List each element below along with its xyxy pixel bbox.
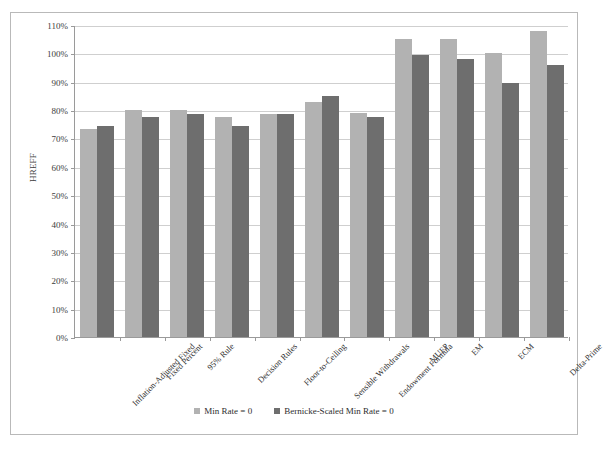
bar	[547, 65, 564, 337]
bar-group	[305, 26, 339, 337]
y-axis-tick-mark	[71, 111, 75, 112]
dark-gray-swatch	[274, 408, 280, 414]
y-axis-tick-mark	[71, 310, 75, 311]
x-axis-tick-mark	[479, 337, 480, 341]
bar-group	[350, 26, 384, 337]
x-axis-tick-mark	[165, 337, 166, 341]
x-axis-tick-mark	[210, 337, 211, 341]
bar	[502, 83, 519, 337]
y-axis-tick-mark	[71, 83, 75, 84]
y-axis-tick-mark	[71, 168, 75, 169]
bar	[530, 31, 547, 337]
bar	[440, 39, 457, 337]
legend-label: Min Rate = 0	[204, 406, 252, 416]
bar	[457, 59, 474, 337]
plot-area: 110%100%90%80%70%60%50%40%30%20%10%0%	[74, 26, 568, 338]
legend-item[interactable]: Min Rate = 0	[194, 406, 252, 416]
bar	[125, 110, 142, 337]
x-axis-tick-mark	[389, 337, 390, 341]
bar-group	[530, 26, 564, 337]
bar-group	[260, 26, 294, 337]
bar-group	[215, 26, 249, 337]
x-axis-tick-mark	[255, 337, 256, 341]
light-gray-swatch	[194, 408, 200, 414]
y-axis-tick-mark	[71, 253, 75, 254]
y-axis-tick-mark	[71, 281, 75, 282]
chart-legend: Min Rate = 0Bernicke-Scaled Min Rate = 0	[11, 406, 577, 416]
bar	[277, 114, 294, 337]
y-axis-tick-mark	[71, 338, 75, 339]
x-axis-tick-mark	[524, 337, 525, 341]
bar	[305, 102, 322, 337]
y-axis-tick-label: 20%	[52, 277, 69, 286]
y-axis-tick-mark	[71, 196, 75, 197]
y-axis-tick-label: 110%	[47, 22, 68, 31]
y-axis-tick-label: 90%	[52, 78, 69, 87]
bar	[170, 110, 187, 337]
y-axis-tick-label: 50%	[52, 192, 69, 201]
x-axis-tick-mark	[120, 337, 121, 341]
x-axis-category-label: ECM	[516, 342, 535, 361]
y-axis-tick-mark	[71, 225, 75, 226]
bar-group	[395, 26, 429, 337]
x-axis-category-label: EM	[469, 342, 484, 357]
bar	[187, 114, 204, 337]
y-axis-tick-label: 60%	[52, 163, 69, 172]
bar	[395, 39, 412, 337]
bar	[142, 117, 159, 337]
y-axis-tick-label: 10%	[52, 305, 69, 314]
bar	[80, 129, 97, 337]
x-axis-category-label: Delta-Prime	[568, 342, 603, 377]
x-axis-tick-mark	[300, 337, 301, 341]
y-axis-tick-label: 80%	[52, 107, 69, 116]
bar-group	[485, 26, 519, 337]
bar-group	[125, 26, 159, 337]
bar	[215, 117, 232, 337]
y-axis-title: HREFF	[28, 153, 38, 182]
bar	[350, 113, 367, 337]
legend-item[interactable]: Bernicke-Scaled Min Rate = 0	[274, 406, 394, 416]
y-axis-tick-label: 70%	[52, 135, 69, 144]
bar	[367, 117, 384, 337]
y-axis-tick-mark	[71, 26, 75, 27]
x-axis-tick-mark	[569, 337, 570, 341]
y-axis-tick-label: 30%	[52, 248, 69, 257]
x-axis-category-label: Floor-to-Ceiling	[302, 342, 347, 387]
x-axis-tick-mark	[434, 337, 435, 341]
bar	[232, 126, 249, 337]
bar	[485, 53, 502, 337]
y-axis-tick-mark	[71, 139, 75, 140]
chart-frame: HREFF 110%100%90%80%70%60%50%40%30%20%10…	[10, 12, 578, 435]
x-axis-category-label: 95% Rule	[206, 342, 236, 372]
x-axis-tick-mark	[344, 337, 345, 341]
bar	[322, 96, 339, 337]
bar	[412, 55, 429, 337]
bar-group	[440, 26, 474, 337]
y-axis-tick-label: 100%	[47, 50, 68, 59]
y-axis-tick-mark	[71, 54, 75, 55]
bar	[260, 114, 277, 337]
y-axis-tick-label: 0%	[56, 334, 68, 343]
y-axis-tick-label: 40%	[52, 220, 69, 229]
bar-group	[80, 26, 114, 337]
legend-label: Bernicke-Scaled Min Rate = 0	[284, 406, 394, 416]
bar	[97, 126, 114, 337]
bar-group	[170, 26, 204, 337]
x-axis-category-label: Decision Rules	[256, 342, 299, 385]
